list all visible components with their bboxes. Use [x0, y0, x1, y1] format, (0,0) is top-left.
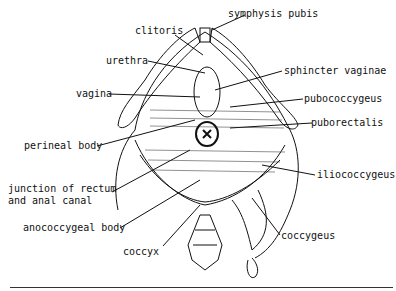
label-sphincter-vaginae: sphincter vaginae: [284, 65, 386, 77]
label-iliococcygeus: iliococcygeus: [317, 169, 395, 181]
label-coccygeus: coccygeus: [281, 230, 335, 242]
label-symphysis-pubis: symphysis pubis: [228, 8, 318, 20]
label-junction-line2: and anal canal: [8, 195, 92, 207]
bottom-rule-divider: [10, 287, 393, 288]
label-anococcygeal-body: anococcygeal body: [23, 222, 125, 234]
label-urethra: urethra: [106, 55, 148, 67]
anatomy-diagram: clitoris symphysis pubis urethra sphinct…: [0, 0, 396, 291]
label-coccyx: coccyx: [123, 246, 159, 258]
label-puborectalis: puborectalis: [311, 117, 383, 129]
label-pubococcygeus: pubococcygeus: [304, 93, 382, 105]
label-vagina: vagina: [76, 88, 112, 100]
label-junction-line1: junction of rectum: [8, 183, 116, 195]
label-clitoris: clitoris: [135, 25, 183, 37]
label-perineal-body: perineal body: [24, 140, 102, 152]
